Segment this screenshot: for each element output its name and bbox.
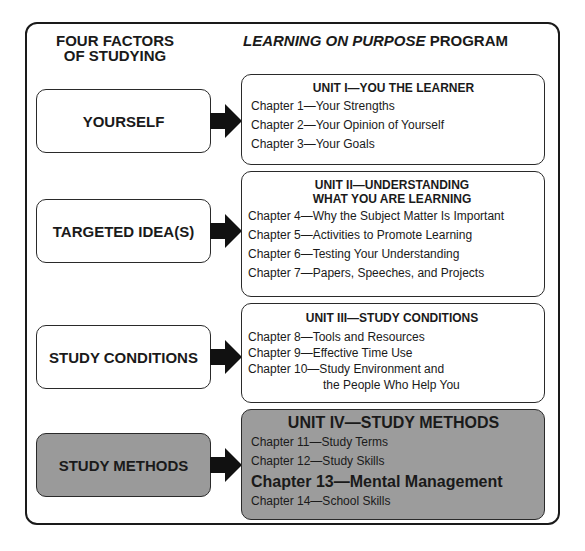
chapter-item: Chapter 2—Your Opinion of Yourself: [251, 116, 536, 135]
chapter-item-emphasized: Chapter 13—Mental Management: [251, 471, 536, 492]
factors-header-line2: OF STUDYING: [40, 48, 190, 63]
arrow-right-icon: [210, 104, 242, 138]
chapter-item: Chapter 11—Study Terms: [251, 433, 536, 452]
chapter-item-continuation: the People Who Help You: [248, 377, 536, 393]
unit-title: UNIT IV—STUDY METHODS: [251, 414, 536, 432]
chapter-item: Chapter 7—Papers, Speeches, and Projects: [248, 264, 536, 283]
unit-3-box: UNIT III—STUDY CONDITIONS Chapter 8—Tool…: [241, 303, 545, 403]
factor-label: STUDY METHODS: [59, 457, 189, 474]
chapter-item: Chapter 12—Study Skills: [251, 452, 536, 471]
unit-2-box: UNIT II—UNDERSTANDING WHAT YOU ARE LEARN…: [241, 171, 545, 297]
chapter-item: Chapter 1—Your Strengths: [251, 97, 536, 116]
unit-title: UNIT II—UNDERSTANDING WHAT YOU ARE LEARN…: [248, 178, 536, 206]
factor-yourself: YOURSELF: [36, 89, 211, 153]
arrow-right-icon: [210, 214, 242, 248]
unit-title: UNIT I—YOU THE LEARNER: [251, 81, 536, 95]
chapter-continuation-text: the People Who Help You: [248, 377, 460, 393]
unit-title-line1: UNIT II—UNDERSTANDING: [248, 178, 536, 192]
factor-label: STUDY CONDITIONS: [49, 349, 198, 366]
chapter-item: Chapter 9—Effective Time Use: [248, 345, 536, 361]
chapter-item: Chapter 10—Study Environment and: [248, 361, 536, 377]
arrow-right-icon: [210, 448, 242, 482]
chapter-item: Chapter 6—Testing Your Understanding: [248, 245, 536, 264]
unit-1-box: UNIT I—YOU THE LEARNER Chapter 1—Your St…: [241, 74, 545, 165]
factor-study-methods: STUDY METHODS: [36, 433, 211, 497]
program-suffix: PROGRAM: [426, 32, 509, 49]
chapter-item: Chapter 4—Why the Subject Matter Is Impo…: [248, 207, 536, 226]
unit-title-line2: WHAT YOU ARE LEARNING: [248, 192, 536, 206]
arrow-right-icon: [210, 340, 242, 374]
program-name: LEARNING ON PURPOSE: [243, 32, 426, 49]
factor-study-conditions: STUDY CONDITIONS: [36, 325, 211, 389]
chapter-item: Chapter 8—Tools and Resources: [248, 329, 536, 345]
factor-label: YOURSELF: [83, 113, 165, 130]
factor-targeted-ideas: TARGETED IDEA(S): [36, 199, 211, 263]
factors-column-header: FOUR FACTORS OF STUDYING: [40, 33, 190, 63]
chapter-item: Chapter 14—School Skills: [251, 492, 536, 511]
factors-header-line1: FOUR FACTORS: [40, 33, 190, 48]
chapter-item: Chapter 3—Your Goals: [251, 135, 536, 154]
chapter-item: Chapter 5—Activities to Promote Learning: [248, 226, 536, 245]
unit-4-box: UNIT IV—STUDY METHODS Chapter 11—Study T…: [241, 409, 545, 520]
program-column-header: LEARNING ON PURPOSE PROGRAM: [243, 33, 508, 48]
factor-label: TARGETED IDEA(S): [53, 223, 194, 240]
unit-title: UNIT III—STUDY CONDITIONS: [248, 311, 536, 325]
